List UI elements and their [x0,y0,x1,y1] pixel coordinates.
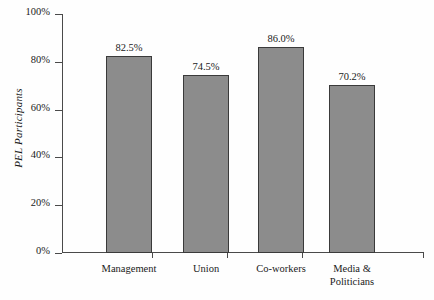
y-axis-label: PEL Participants [12,68,24,188]
bar-value-management: 82.5% [115,42,142,53]
bar-value-co-workers: 86.0% [267,33,294,44]
y-tick-0: 0% [55,253,62,254]
bar-co-workers: 86.0% [258,47,304,253]
y-tick-label-40: 40% [31,149,50,160]
bar-management: 82.5% [106,56,152,253]
bar-chart: PEL Participants 100% 80% 60% 40% 20% 0% [0,0,434,300]
y-tick-label-60: 60% [31,102,50,113]
bar-value-union: 74.5% [192,61,219,72]
bar-media-politicians: 70.2% [329,85,375,253]
plot-area: 100% 80% 60% 40% 20% 0% 82.5% 74.5% 86.0 [62,14,424,253]
y-tick-label-0: 0% [36,245,50,256]
y-tick-label-100: 100% [26,6,51,17]
category-label-media-politicians-line2: Politicians [302,275,402,288]
bar-union: 74.5% [183,75,229,253]
y-tick-100: 100% [55,14,62,15]
y-tick-60: 60% [55,110,62,111]
y-tick-label-20: 20% [31,197,50,208]
y-tick-20: 20% [55,205,62,206]
y-axis-line [62,14,63,253]
y-tick-label-80: 80% [31,54,50,65]
bar-value-media-politicians: 70.2% [338,71,365,82]
y-tick-40: 40% [55,157,62,158]
category-label-media-politicians-line1: Media & [302,262,402,275]
y-tick-80: 80% [55,62,62,63]
category-label-media-politicians: Media & Politicians [302,262,402,288]
x-tick-separator-1 [152,252,153,258]
x-tick-separator-4 [423,252,424,258]
